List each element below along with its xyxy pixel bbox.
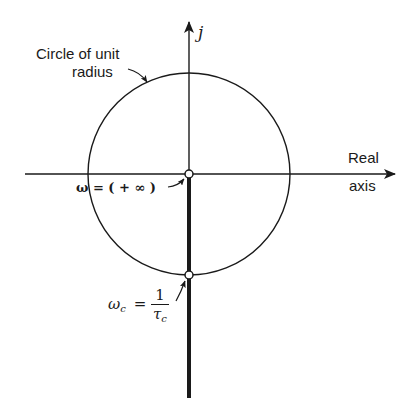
omega-c-leader — [176, 281, 185, 301]
omega-infinity-label: ω = ( + ∞ ) — [76, 180, 156, 196]
omega-c-equals: = — [134, 295, 147, 313]
omega-c-label: ωc = — [108, 296, 146, 317]
real-axis-label-line1: Real — [348, 150, 379, 166]
point-omega-c — [185, 271, 193, 279]
omega-c-symbol: ω — [108, 295, 120, 313]
imaginary-axis-label: j — [198, 24, 203, 40]
circle-label-line2: radius — [72, 64, 113, 80]
point-omega-infinity — [185, 170, 193, 178]
circle-label-line1: Circle of unit — [36, 46, 119, 62]
fraction-numerator: 1 — [155, 287, 165, 303]
circle-label-leader — [128, 69, 147, 82]
omega-c-subscript: c — [120, 303, 126, 314]
real-axis-label-line2: axis — [349, 178, 376, 194]
omega-c-fraction: 1 τc — [151, 287, 169, 327]
omega-infinity-leader — [168, 179, 184, 187]
diagram-canvas: Circle of unit radius j Real axis ω = ( … — [0, 0, 417, 416]
fraction-denominator: τc — [153, 306, 167, 327]
diagram-graphics — [0, 0, 417, 416]
